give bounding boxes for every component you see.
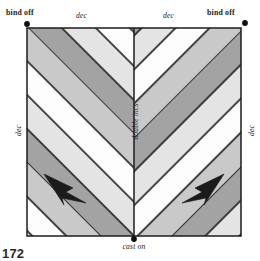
- bind-off-left-dot: [24, 21, 30, 27]
- label-dec-side-left: dec: [14, 111, 23, 151]
- label-dec-side-right: dec: [247, 111, 256, 151]
- bind-off-right-dot: [242, 20, 248, 26]
- label-bind-off-right: bind off: [207, 8, 235, 17]
- label-double-incs: double incs: [131, 92, 140, 152]
- left-stripe-panel: [20, 20, 145, 244]
- page-number: 172: [2, 246, 24, 261]
- label-dec-top-left: dec: [76, 11, 87, 20]
- label-cast-on: cast on: [114, 242, 154, 251]
- label-dec-top-right: dec: [163, 11, 174, 20]
- right-stripe-panel: [127, 20, 252, 244]
- label-bind-off-left: bind off: [6, 8, 34, 17]
